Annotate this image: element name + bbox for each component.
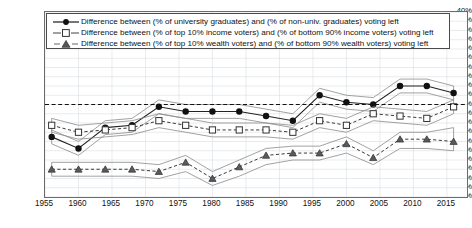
legend-item-label: Difference between (% of top 10% income … bbox=[81, 28, 434, 38]
filled-circle-icon bbox=[51, 17, 81, 27]
open-square-icon bbox=[51, 28, 81, 38]
legend-item-label: Difference between (% of university grad… bbox=[81, 17, 399, 27]
legend-item-label: Difference between (% of top 10% wealth … bbox=[81, 39, 428, 49]
filled-triangle-icon bbox=[51, 39, 81, 49]
chart-container: 40%36%32%28%24%20%16%12%8%4%0%-4%-8%-12%… bbox=[0, 0, 472, 228]
legend-item: Difference between (% of top 10% income … bbox=[51, 28, 445, 39]
chart-legend: Difference between (% of university grad… bbox=[46, 13, 450, 49]
x-axis-tick: 2015 bbox=[426, 199, 466, 208]
legend-item: Difference between (% of top 10% wealth … bbox=[51, 39, 445, 50]
legend-item: Difference between (% of university grad… bbox=[51, 17, 445, 28]
